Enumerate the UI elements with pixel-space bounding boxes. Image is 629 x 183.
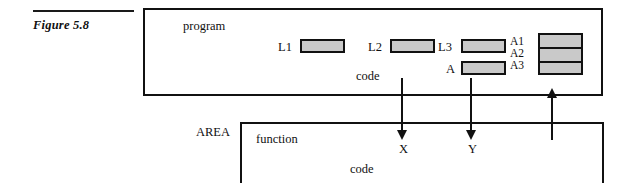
parameter-label-y: Y — [468, 143, 477, 156]
figure-label: Figure 5.8 — [33, 18, 89, 33]
array-label-a2: A2 — [510, 48, 524, 60]
function-title: function — [256, 133, 298, 146]
connector-to-y-line — [470, 78, 472, 134]
slot-label-l3: L3 — [438, 41, 452, 54]
slot-label-l2: L2 — [368, 41, 382, 54]
slot-cell-l2 — [390, 39, 435, 53]
connector-to-y-arrowhead — [466, 130, 476, 140]
array-cell-stack — [538, 33, 583, 75]
figure-canvas: Figure 5.8 program code L1 L2 L3 A A1 A2… — [0, 0, 629, 183]
program-code-label: code — [356, 70, 380, 83]
program-title: program — [183, 20, 225, 33]
array-cell-divider-2 — [540, 61, 581, 63]
parameter-label-x: X — [399, 143, 408, 156]
connector-to-x-arrowhead — [397, 130, 407, 140]
area-label: AREA — [196, 126, 230, 139]
slot-label-a: A — [446, 63, 455, 76]
array-label-a1: A1 — [510, 36, 524, 48]
function-code-label: code — [350, 163, 374, 176]
array-cell-divider-1 — [540, 47, 581, 49]
connector-return-line — [551, 96, 553, 140]
slot-label-l1: L1 — [278, 41, 292, 54]
connector-return-arrowhead — [547, 88, 557, 98]
connector-to-x-line — [401, 78, 403, 134]
figure-caption-rule — [33, 10, 134, 12]
slot-cell-a — [461, 61, 506, 75]
slot-cell-l1 — [300, 39, 345, 53]
slot-cell-l3 — [461, 39, 506, 53]
array-label-a3: A3 — [510, 60, 524, 72]
